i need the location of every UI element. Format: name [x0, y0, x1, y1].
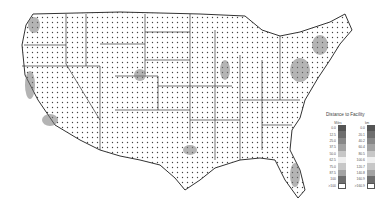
legend-label: 140.8 [353, 171, 367, 175]
legend-label: 80.5 [353, 152, 367, 156]
swatch [367, 183, 375, 189]
legend-label: 37.5 [324, 145, 338, 149]
legend-label: 40.2 [353, 139, 367, 143]
legend-label: 75.0 [324, 165, 338, 169]
legend-column-km: km 0.0 20.1 40.2 60.4 80.5 100.6 120.7 1… [353, 121, 381, 189]
legend-label: 12.5 [324, 133, 338, 137]
us-outline [22, 12, 352, 198]
legend-label: >160.9 [353, 184, 367, 188]
legend-title: Distance to Facility [326, 112, 365, 117]
legend-label: 120.7 [353, 165, 367, 169]
legend-label: 20.1 [353, 133, 367, 137]
legend-label: 87.5 [324, 171, 338, 175]
legend-label: 100 [324, 177, 338, 181]
legend-label: >100 [324, 184, 338, 188]
legend-label: 0.0 [353, 126, 367, 130]
legend-label: 50.0 [324, 152, 338, 156]
legend-label: 160.9 [353, 177, 367, 181]
legend-label: 25.0 [324, 139, 338, 143]
legend-label: 0.0 [324, 126, 338, 130]
legend-label: 100.6 [353, 158, 367, 162]
legend-label: 60.4 [353, 145, 367, 149]
legend-column-miles: Miles 0.0 12.5 25.0 37.5 50.0 62.5 75.0 … [324, 121, 352, 189]
swatch [338, 183, 346, 189]
legend-label: 62.5 [324, 158, 338, 162]
legend: Distance to Facility Miles 0.0 12.5 25.0… [324, 112, 386, 202]
